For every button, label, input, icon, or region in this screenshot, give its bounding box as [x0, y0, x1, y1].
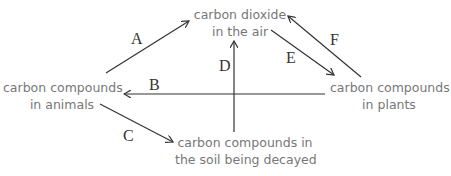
node-animals-line1: carbon compounds	[3, 79, 121, 96]
node-plants-line2: in plants	[330, 96, 448, 113]
label-a: A	[131, 31, 143, 47]
label-e: E	[286, 50, 296, 66]
node-animals-line2: in animals	[3, 96, 121, 113]
node-plants-line1: carbon compounds	[330, 79, 448, 96]
node-air: carbon dioxide in the air	[190, 6, 290, 40]
node-animals: carbon compounds in animals	[3, 79, 121, 113]
arrow-a	[106, 21, 189, 73]
node-air-line1: carbon dioxide	[190, 6, 290, 23]
label-d: D	[219, 58, 231, 74]
node-soil-line2: the soil being decayed	[175, 151, 315, 168]
node-soil-line1: carbon compounds in	[175, 134, 315, 151]
node-plants: carbon compounds in plants	[330, 79, 448, 113]
node-soil: carbon compounds in the soil being decay…	[175, 134, 315, 168]
node-air-line2: in the air	[190, 23, 290, 40]
label-c: C	[123, 128, 134, 144]
label-f: F	[330, 32, 339, 48]
label-b: B	[149, 77, 160, 93]
